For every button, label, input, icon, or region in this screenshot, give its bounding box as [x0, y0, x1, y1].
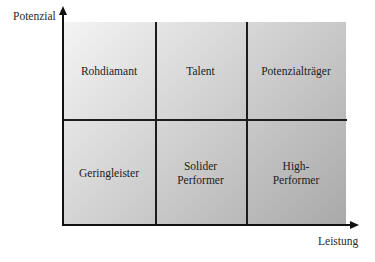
divider-horizontal: [63, 119, 347, 121]
cell-high-performer: High- Performer: [246, 120, 346, 225]
cell-potenzialtraeger: Potenzialträger: [246, 22, 346, 120]
cell-label-line2: Performer: [273, 173, 320, 187]
divider-vertical-2: [246, 22, 248, 225]
cell-rohdiamant: Rohdiamant: [63, 22, 155, 120]
cell-label: Potenzialträger: [261, 64, 331, 78]
y-axis-line: [62, 12, 64, 226]
cell-talent: Talent: [155, 22, 246, 120]
x-axis-line: [62, 224, 352, 226]
cell-solider-performer: Solider Performer: [155, 120, 246, 225]
cell-label-line1: Solider: [184, 159, 217, 173]
arrow-up-icon: [59, 6, 67, 15]
cell-label-line2: Performer: [177, 173, 224, 187]
y-axis-label: Potenzial: [13, 10, 56, 22]
cell-label: Talent: [186, 64, 215, 78]
cell-label-line1: High-: [283, 159, 310, 173]
matrix-grid: Rohdiamant Talent Potenzialträger Gering…: [63, 22, 346, 225]
cell-label: Rohdiamant: [81, 64, 137, 78]
cell-geringleister: Geringleister: [63, 120, 155, 225]
divider-vertical-1: [155, 22, 157, 225]
arrow-right-icon: [350, 221, 359, 229]
cell-label: Geringleister: [79, 166, 139, 180]
x-axis-label: Leistung: [318, 235, 358, 247]
